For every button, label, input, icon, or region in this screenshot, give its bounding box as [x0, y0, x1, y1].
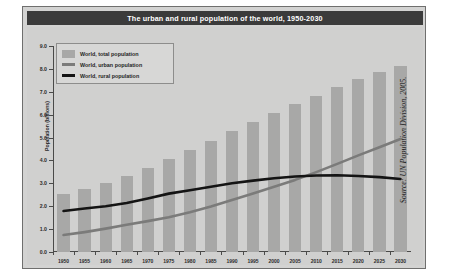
x-tick: 1960 [95, 252, 96, 255]
legend-swatch-rural-icon [62, 74, 75, 77]
x-tick: 2005 [285, 252, 286, 255]
x-tick-label: 2005 [290, 258, 301, 264]
x-tick-label: 1995 [247, 258, 258, 264]
x-tick: 2010 [306, 252, 307, 255]
y-tick-label: 0.0 [40, 249, 47, 255]
x-tick: 1980 [179, 252, 180, 255]
legend-item-total: World, total population [62, 48, 168, 59]
y-tick-label: 1.0 [40, 226, 47, 232]
x-tick-label: 1990 [226, 258, 237, 264]
plot-panel: Population (billions) 0.01.02.03.04.05.0… [27, 27, 423, 265]
legend-label-total: World, total population [80, 51, 139, 57]
legend-swatch-total-icon [62, 50, 75, 58]
x-tick: 1950 [53, 252, 54, 255]
x-tick-label: 1975 [163, 258, 174, 264]
x-tick-label: 2025 [374, 258, 385, 264]
x-tick-label: 1955 [79, 258, 90, 264]
legend-label-rural: World, rural population [80, 73, 139, 79]
x-tick: 2000 [264, 252, 265, 255]
x-tick: 2030 [390, 252, 391, 255]
x-tick: 1970 [137, 252, 138, 255]
x-tick-label: 1960 [100, 258, 111, 264]
y-tick-label: 2.0 [40, 203, 47, 209]
y-tick-label: 7.0 [40, 89, 47, 95]
legend-label-urban: World, urban population [80, 62, 142, 68]
x-tick: 1955 [74, 252, 75, 255]
y-tick-label: 5.0 [40, 135, 47, 141]
x-tick: 1990 [221, 252, 222, 255]
x-tick-label: 2030 [395, 258, 406, 264]
y-axis-label: Population (billions) [44, 86, 50, 166]
chart-screenshot: The urban and rural population of the wo… [0, 0, 468, 279]
x-tick: 1965 [116, 252, 117, 255]
legend-item-rural: World, rural population [62, 70, 168, 81]
x-tick-label: 2000 [269, 258, 280, 264]
x-tick: 1985 [200, 252, 201, 255]
y-tick-label: 9.0 [40, 43, 47, 49]
figure-frame: The urban and rural population of the wo… [22, 6, 426, 269]
urban-population-line [64, 139, 401, 235]
x-tick-label: 1950 [58, 258, 69, 264]
x-tick-label: 1970 [142, 258, 153, 264]
x-tick: 2015 [327, 252, 328, 255]
y-tick-label: 6.0 [40, 112, 47, 118]
x-tick-label: 2020 [353, 258, 364, 264]
x-tick: 2020 [348, 252, 349, 255]
source-note: Source: UN Population Division, 2005. [398, 76, 407, 202]
x-tick-label: 1980 [184, 258, 195, 264]
legend-swatch-urban-icon [62, 63, 75, 66]
chart-legend: World, total population World, urban pop… [56, 43, 174, 84]
y-tick-label: 3.0 [40, 180, 47, 186]
rural-population-line [64, 175, 401, 211]
x-tick-label: 1965 [121, 258, 132, 264]
y-tick-label: 4.0 [40, 157, 47, 163]
x-tick: 2025 [369, 252, 370, 255]
x-tick: 1975 [158, 252, 159, 255]
x-tick-label: 2010 [311, 258, 322, 264]
x-tick-label: 1985 [205, 258, 216, 264]
x-tick: 1995 [243, 252, 244, 255]
chart-title: The urban and rural population of the wo… [27, 11, 423, 25]
legend-item-urban: World, urban population [62, 59, 168, 70]
x-tick-label: 2015 [332, 258, 343, 264]
y-tick-label: 8.0 [40, 66, 47, 72]
